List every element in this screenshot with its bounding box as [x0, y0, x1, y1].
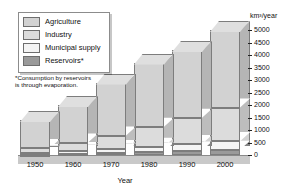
y-tick-label: 4000 [254, 50, 270, 59]
legend-label-municipal-supply: Municipal supply [45, 44, 100, 52]
x-label-1990: 1990 [170, 160, 204, 169]
y-tick-label: 2000 [254, 100, 270, 109]
bar-side-2000-municipal-supply [240, 132, 250, 141]
bar-segment-2000-municipal-supply [210, 141, 240, 150]
legend: Agriculture Industry Municipal supply Re… [18, 12, 110, 73]
footnote-line-2: is through evaporation. [15, 81, 125, 88]
y-tick-mark [248, 143, 252, 144]
bar-segment-1990-industry [172, 118, 202, 144]
legend-label-reservoirs: Reservoirs* [45, 57, 84, 65]
y-tick-label: 2500 [254, 88, 270, 97]
y-tick-label: 1500 [254, 113, 270, 122]
bar-side-1980-industry [164, 118, 174, 138]
bar-segment-2000-agriculture [210, 30, 240, 108]
y-tick-label: 4500 [254, 38, 270, 47]
y-tick-mark [248, 155, 252, 156]
legend-item-reservoirs: Reservoirs* [23, 55, 105, 67]
y-tick-label: 3000 [254, 75, 270, 84]
legend-item-agriculture: Agriculture [23, 16, 105, 28]
y-tick-mark [248, 80, 252, 81]
y-tick-mark [248, 55, 252, 56]
x-label-2000: 2000 [208, 160, 242, 169]
bar-segment-2000-industry [210, 108, 240, 142]
bar-segment-1990-municipal-supply [172, 144, 202, 151]
bar-segment-1970-agriculture [96, 83, 126, 136]
legend-label-agriculture: Agriculture [45, 18, 81, 26]
y-tick-label: 0 [254, 150, 258, 159]
bar-segment-1970-municipal-supply [96, 149, 126, 152]
legend-swatch-agriculture [23, 17, 40, 27]
bar-side-2000-industry [240, 99, 250, 133]
y-axis-unit-label: km³/year [250, 12, 277, 19]
y-tick-mark [248, 68, 252, 69]
footnote: *Consumption by reservoirs is through ev… [15, 74, 125, 89]
bar-segment-1950-industry [20, 148, 50, 153]
y-tick-mark [248, 30, 252, 31]
legend-label-industry: Industry [45, 31, 72, 39]
y-tick-mark [248, 43, 252, 44]
y-tick-label: 1000 [254, 125, 270, 134]
bar-side-1990-agriculture [202, 41, 212, 109]
y-tick-mark [248, 130, 252, 131]
legend-swatch-industry [23, 30, 40, 40]
y-tick-label: 3500 [254, 63, 270, 72]
y-tick-label: 500 [254, 138, 266, 147]
water-consumption-chart: 0500100015002000250030003500400045005000… [0, 0, 292, 194]
bar-side-1980-agriculture [164, 54, 174, 118]
y-tick-mark [248, 118, 252, 119]
bar-segment-1980-agriculture [134, 63, 164, 127]
x-label-1960: 1960 [56, 160, 90, 169]
x-label-1970: 1970 [94, 160, 128, 169]
bar-side-2000-agriculture [240, 21, 250, 99]
x-label-1980: 1980 [132, 160, 166, 169]
bar-segment-2000-reservoirs- [210, 150, 240, 155]
bar-segment-1980-industry [134, 127, 164, 147]
bar-segment-1960-reservoirs- [58, 154, 88, 156]
bar-segment-1960-industry [58, 143, 88, 152]
bar-segment-1980-municipal-supply [134, 147, 164, 152]
legend-swatch-municipal-supply [23, 43, 40, 53]
bar-segment-1980-reservoirs- [134, 152, 164, 156]
y-tick-mark [248, 93, 252, 94]
bar-segment-1950-municipal-supply [20, 153, 50, 155]
legend-item-industry: Industry [23, 29, 105, 41]
x-axis-title: Year [0, 176, 250, 185]
bar-segment-1960-municipal-supply [58, 151, 88, 153]
bar-segment-1990-reservoirs- [172, 151, 202, 156]
y-tick-mark [248, 105, 252, 106]
bar-segment-1970-reservoirs- [96, 153, 126, 156]
bar-segment-1960-agriculture [58, 105, 88, 143]
bar-segment-1970-industry [96, 136, 126, 150]
bar-segment-1950-agriculture [20, 120, 50, 148]
y-tick-label: 5000 [254, 25, 270, 34]
x-label-1950: 1950 [18, 160, 52, 169]
legend-swatch-reservoirs [23, 56, 40, 66]
bar-side-1970-industry [126, 127, 136, 141]
bar-segment-1990-agriculture [172, 50, 202, 118]
legend-item-municipal-supply: Municipal supply [23, 42, 105, 54]
bar-side-1990-industry [202, 109, 212, 135]
footnote-line-1: *Consumption by reservoirs [15, 74, 125, 81]
